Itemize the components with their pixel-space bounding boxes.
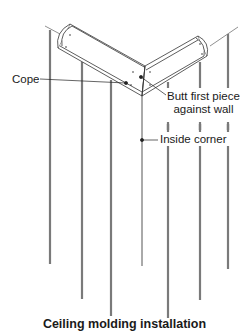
- molding-diagram: [0, 0, 249, 336]
- label-inside-corner: Inside corner: [160, 133, 226, 146]
- label-butt-line2: against wall: [167, 103, 240, 116]
- label-butt-line1: Butt first piece: [167, 90, 240, 103]
- figure-caption: Ceiling molding installation: [0, 317, 249, 331]
- label-cope: Cope: [12, 73, 40, 86]
- left-molding: [58, 24, 147, 96]
- label-butt-first-piece: Butt first piece against wall: [167, 90, 240, 116]
- right-molding: [142, 36, 208, 96]
